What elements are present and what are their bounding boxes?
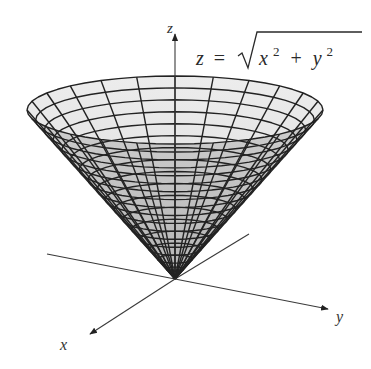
equation-label: z = x 2 + y 2 (195, 32, 362, 70)
x-axis-line (90, 279, 175, 334)
svg-text:z =: z = (195, 47, 225, 69)
radicand-y-exponent: 2 (327, 44, 334, 59)
radicand-y: y (311, 47, 322, 70)
svg-text:x 2 + y: x 2 + y 2 (258, 38, 333, 70)
radicand-x-exponent: 2 (273, 44, 280, 59)
y-axis-label: y (334, 308, 344, 326)
y-axis-line (175, 279, 328, 309)
cone-figure: z x y z = x 2 + y 2 (0, 0, 371, 369)
equation-lhs: z (195, 47, 204, 69)
x-axis-label: x (59, 336, 67, 353)
z-axis-label: z (166, 20, 173, 36)
axes-front (90, 279, 328, 334)
radicand-x: x (258, 47, 268, 69)
radicand-plus: + (290, 47, 301, 69)
equation-equals: = (214, 47, 225, 69)
